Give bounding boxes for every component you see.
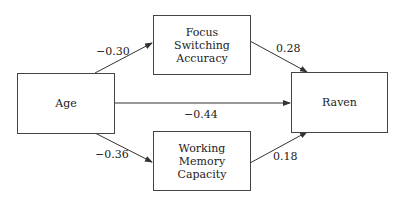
node-age: Age xyxy=(17,73,115,134)
node-focus-line1: Focus xyxy=(174,26,230,39)
edge-label-age-raven: −0.44 xyxy=(184,108,218,121)
node-focus-switching-accuracy: Focus Switching Accuracy xyxy=(153,15,251,75)
node-focus-line2: Switching xyxy=(174,39,230,52)
node-wm-line3: Capacity xyxy=(178,168,227,181)
edge-label-age-wm: −0.36 xyxy=(95,148,129,161)
node-wm-line1: Working xyxy=(178,142,227,155)
node-raven-label: Raven xyxy=(322,96,357,109)
edge-label-wm-raven: 0.18 xyxy=(273,150,298,163)
node-focus-line3: Accuracy xyxy=(174,52,230,65)
node-raven: Raven xyxy=(291,72,388,133)
node-age-label: Age xyxy=(55,97,77,110)
edge-label-focus-raven: 0.28 xyxy=(276,42,301,55)
edge-label-age-focus: −0.30 xyxy=(96,45,130,58)
node-working-memory-capacity: Working Memory Capacity xyxy=(153,131,251,191)
node-wm-line2: Memory xyxy=(178,155,227,168)
